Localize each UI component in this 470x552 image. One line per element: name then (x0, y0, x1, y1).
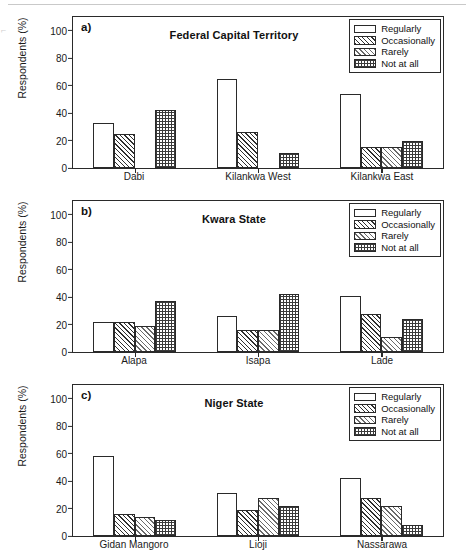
legend-swatch-rarely (354, 416, 376, 425)
bar-occasionally (114, 322, 135, 352)
legend-swatch-notatall (354, 427, 376, 436)
legend-b: Regularly Occasionally Rarely Not at all (349, 203, 441, 257)
bar-rarely (381, 147, 402, 168)
y-axis-tick-mark (68, 167, 73, 168)
y-axis-tick-mark (68, 112, 73, 113)
y-axis-tick: 60 (43, 448, 67, 459)
legend-item-rarely: Rarely (354, 230, 435, 242)
bar-occasionally (114, 134, 135, 168)
y-axis-tick: 100 (43, 209, 67, 220)
panel-a: Respondents (%) a) Federal Capital Terri… (0, 0, 470, 184)
y-axis-tick-mark (68, 324, 73, 325)
bar-regularly (93, 123, 114, 168)
bar-regularly (217, 79, 238, 168)
y-axis-tick: 20 (43, 135, 67, 146)
panel-c: Respondents (%) c) Niger State Regularly… (0, 368, 470, 552)
legend-swatch-regularly (354, 393, 376, 402)
bar-regularly (217, 316, 238, 352)
legend-item-notatall: Not at all (354, 242, 435, 254)
y-axis-tick: 100 (43, 25, 67, 36)
legend-label-rarely: Rarely (381, 230, 408, 242)
y-axis-tick: 0 (43, 163, 67, 174)
bar-regularly (340, 478, 361, 536)
plot-area-c: c) Niger State Regularly Occasionally Ra… (72, 384, 444, 537)
legend-label-occasionally: Occasionally (381, 403, 435, 415)
bar-regularly (340, 94, 361, 168)
bar-occasionally (361, 147, 382, 168)
y-axis-label: Respondents (%) (16, 182, 28, 302)
legend-item-occasionally: Occasionally (354, 403, 435, 415)
bar-rarely (381, 337, 402, 352)
y-axis-tick-mark (68, 351, 73, 352)
legend-item-regularly: Regularly (354, 23, 435, 35)
legend-swatch-occasionally (354, 220, 376, 229)
y-axis-tick-mark (68, 242, 73, 243)
bar-notatall (155, 520, 176, 536)
y-axis-tick-mark (68, 480, 73, 481)
x-axis-label: Alapa (121, 355, 147, 366)
y-axis-tick: 40 (43, 476, 67, 487)
bar-notatall (155, 110, 176, 168)
bar-notatall (155, 301, 176, 352)
legend-item-rarely: Rarely (354, 414, 435, 426)
bar-regularly (340, 296, 361, 352)
y-axis-tick: 80 (43, 53, 67, 64)
legend-swatch-regularly (354, 209, 376, 218)
legend-label-occasionally: Occasionally (381, 219, 435, 231)
legend-label-regularly: Regularly (381, 391, 421, 403)
y-axis-tick-mark (68, 296, 73, 297)
bar-occasionally (114, 514, 135, 536)
y-axis-tick: 80 (43, 421, 67, 432)
legend-item-occasionally: Occasionally (354, 35, 435, 47)
y-axis-tick: 0 (43, 531, 67, 542)
legend-label-rarely: Rarely (381, 46, 408, 58)
y-axis-tick-mark (68, 58, 73, 59)
plot-area-a: a) Federal Capital Territory Regularly O… (72, 16, 444, 169)
bar-notatall (279, 153, 300, 168)
y-axis-tick: 20 (43, 319, 67, 330)
x-axis-label: Lioji (249, 539, 267, 550)
bar-rarely (135, 517, 156, 536)
legend-c: Regularly Occasionally Rarely Not at all (349, 387, 441, 441)
bar-notatall (402, 525, 423, 536)
legend-label-regularly: Regularly (381, 23, 421, 35)
bar-rarely (258, 330, 279, 352)
legend-swatch-notatall (354, 59, 376, 68)
x-axis-label: Kilankwa East (351, 171, 414, 182)
y-axis-tick-mark (68, 535, 73, 536)
legend-a: Regularly Occasionally Rarely Not at all (349, 19, 441, 73)
legend-swatch-regularly (354, 25, 376, 34)
y-axis-tick-mark (68, 426, 73, 427)
y-axis-label: Respondents (%) (16, 366, 28, 486)
legend-item-notatall: Not at all (354, 426, 435, 438)
y-axis-tick: 60 (43, 264, 67, 275)
y-axis-tick-mark (68, 140, 73, 141)
legend-label-regularly: Regularly (381, 207, 421, 219)
legend-swatch-rarely (354, 232, 376, 241)
bar-notatall (402, 319, 423, 352)
y-axis-tick-mark (68, 398, 73, 399)
y-axis-tick: 80 (43, 237, 67, 248)
legend-item-rarely: Rarely (354, 46, 435, 58)
y-axis-tick-mark (68, 85, 73, 86)
y-axis-tick: 20 (43, 503, 67, 514)
bar-occasionally (361, 498, 382, 536)
legend-swatch-notatall (354, 243, 376, 252)
bar-notatall (279, 506, 300, 536)
legend-item-regularly: Regularly (354, 391, 435, 403)
y-axis-tick: 60 (43, 80, 67, 91)
bar-occasionally (237, 330, 258, 352)
x-axis-label: Lade (371, 355, 393, 366)
bar-rarely (258, 498, 279, 536)
y-axis-tick-mark (68, 508, 73, 509)
bar-regularly (93, 456, 114, 536)
bar-rarely (135, 326, 156, 352)
legend-item-notatall: Not at all (354, 58, 435, 70)
x-axis-label: Dabi (124, 171, 145, 182)
bar-rarely (381, 506, 402, 536)
bar-occasionally (237, 510, 258, 536)
legend-item-occasionally: Occasionally (354, 219, 435, 231)
y-axis-tick: 100 (43, 393, 67, 404)
legend-item-regularly: Regularly (354, 207, 435, 219)
y-axis-tick-mark (68, 30, 73, 31)
